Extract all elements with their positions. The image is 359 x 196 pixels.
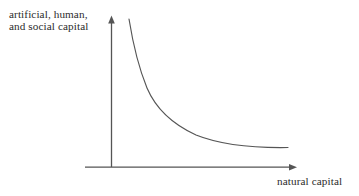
y-axis-label-line-1: artificial, human, xyxy=(9,8,88,20)
x-axis-arrow-head-icon xyxy=(289,164,297,171)
y-axis-label-line-2: and social capital xyxy=(9,20,88,32)
substitution-curve xyxy=(129,19,288,148)
x-axis-label: natural capital xyxy=(277,175,342,187)
y-axis-label: artificial, human, and social capital xyxy=(9,8,88,33)
y-axis-arrow-head-icon xyxy=(108,16,115,24)
capital-tradeoff-figure: artificial, human, and social capital na… xyxy=(0,0,359,196)
